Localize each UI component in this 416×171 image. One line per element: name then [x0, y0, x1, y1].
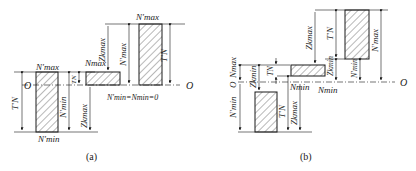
caption-b: (b)	[300, 151, 312, 163]
label-a-mid-tn: TN	[70, 75, 78, 84]
origin-label-a-left: O	[24, 80, 31, 91]
origin-label-a-right: O	[186, 80, 193, 91]
tolerance-zone-b-right	[345, 10, 369, 59]
label-a-left-nmin: N′min	[58, 96, 68, 119]
tolerance-zone-a-middle	[86, 72, 120, 85]
label-b-lower-zkmax: Zkmax	[289, 101, 299, 125]
label-b-left-nmin: N′min	[228, 96, 238, 119]
tolerance-zone-b-lower	[255, 92, 277, 132]
label-b-mid-nmin: Nmin	[289, 82, 310, 92]
panel-a: O O N′max N′min T′N N′min Nmax TN Zkmax …	[10, 12, 193, 163]
label-b-lower-tn: T′N	[277, 104, 287, 118]
label-b-right-tn: T′N	[325, 26, 335, 40]
tolerance-zone-a-left	[36, 72, 58, 132]
label-b-left-zkmin: Zkmin	[248, 65, 258, 88]
tolerance-zone-diagram: O O N′max N′min T′N N′min Nmax TN Zkmax …	[0, 0, 416, 171]
origin-label-b-right: O	[400, 77, 407, 88]
label-a-right-nmax: N′max	[118, 43, 128, 67]
label-b-right-nmin: Nmin	[317, 85, 338, 95]
label-b-mid-tn: TN	[266, 66, 275, 76]
label-b-left-nmax: O	[228, 81, 238, 88]
label-b-right-zkmin: Zkmin	[326, 56, 335, 76]
label-b-right-zkmax: Zkmax	[304, 26, 314, 50]
label-a-right-zkmax: Zkmax	[97, 38, 107, 62]
tolerance-zone-b-middle	[291, 65, 325, 76]
label-a-right-tn: T′N	[159, 48, 169, 62]
label-b-right-nprime-max: N′max	[370, 29, 380, 53]
label-a-mid-zkmax: Zkmax	[79, 104, 89, 128]
label-a-right-top: N′max	[135, 12, 159, 22]
label-a-left-tn: T′N	[10, 96, 20, 110]
label-a-left-top: N′max	[35, 62, 59, 72]
label-a-left-bottom: N′min	[37, 134, 60, 144]
label-a-mid-eq: N′min=Nmin=0	[106, 93, 158, 102]
caption-a: (a)	[86, 151, 97, 163]
label-b-left-nmax-text: Nmax	[228, 57, 238, 79]
label-b-right-nprime-min: N′min	[350, 59, 359, 79]
panel-b: O O Nmax Zkmin N′min TN Nmin T′N Z	[228, 10, 407, 163]
